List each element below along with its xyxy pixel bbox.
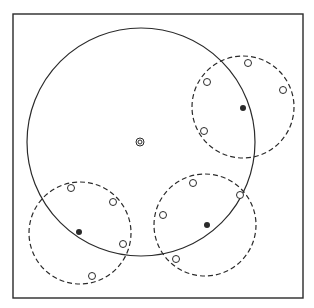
diagram-canvas [0, 0, 314, 308]
main-circle [27, 28, 255, 256]
open-point-icon [204, 79, 211, 86]
open-point-icon [173, 256, 180, 263]
frame-border [13, 14, 303, 298]
open-point-icon [245, 60, 252, 67]
filled-point-icon [76, 229, 82, 235]
open-point-icon [280, 87, 287, 94]
filled-point-icon [240, 105, 246, 111]
center-marker-icon [136, 138, 144, 146]
cluster-upper-right [192, 56, 294, 158]
open-point-icon [201, 128, 208, 135]
open-point-icon [190, 180, 197, 187]
cluster-lower-left [29, 182, 131, 284]
open-point-icon [120, 241, 127, 248]
clusters [29, 56, 294, 284]
filled-point-icon [204, 222, 210, 228]
open-point-icon [160, 212, 167, 219]
open-point-icon [68, 185, 75, 192]
cluster-lower-right [154, 174, 256, 276]
open-point-icon [110, 199, 117, 206]
open-point-icon [237, 192, 244, 199]
open-point-icon [89, 273, 96, 280]
